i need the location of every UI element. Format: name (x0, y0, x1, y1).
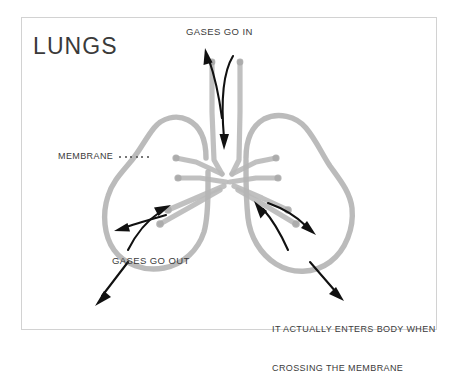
left-lung-outline (105, 117, 208, 269)
right-lung-outline (246, 116, 352, 272)
left-membrane-crossing-arrow (95, 262, 128, 306)
bronchi-tree (156, 154, 300, 227)
left-lung-outflow-arrow (128, 205, 171, 250)
right-membrane-crossing-arrow (310, 262, 344, 301)
label-enters-body-line1: IT ACTUALLY ENTERS BODY WHEN (272, 323, 436, 336)
label-enters-body: IT ACTUALLY ENTERS BODY WHEN CROSSING TH… (272, 297, 436, 375)
trachea-inflow-arrow (220, 56, 234, 150)
page-title: LUNGS (33, 32, 118, 61)
label-enters-body-line2: CROSSING THE MEMBRANE (272, 362, 436, 375)
label-membrane: MEMBRANE (58, 151, 113, 162)
membrane-leader-dots (119, 155, 149, 159)
label-gases-go-out: GASES GO OUT (112, 255, 190, 267)
label-gases-go-in: GASES GO IN (186, 26, 253, 38)
